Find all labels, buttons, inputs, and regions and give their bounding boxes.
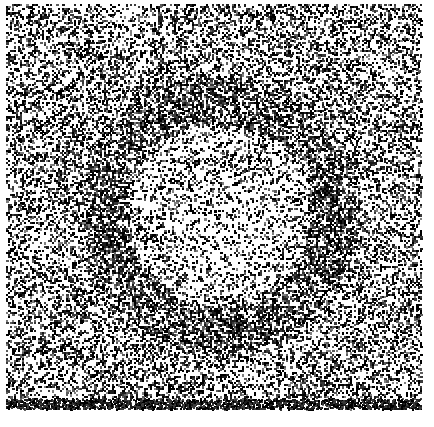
random-dot-canvas [0, 0, 434, 427]
noise-image-stage [0, 0, 434, 427]
